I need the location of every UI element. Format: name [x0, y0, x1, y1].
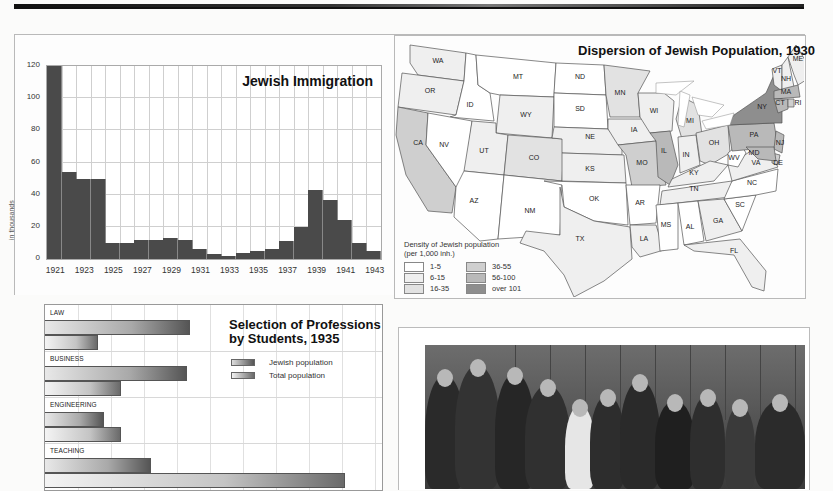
x-tick-label: 1941 [331, 265, 361, 275]
map-legend: Density of Jewish population (per 1,000 … [404, 240, 499, 298]
category-label-law: LAW [50, 309, 64, 316]
gridline-horizontal [47, 97, 381, 98]
state-label: CO [529, 154, 540, 161]
legend-total-label: Total population [269, 371, 325, 380]
great-lake [656, 81, 694, 95]
bar-1931 [192, 249, 207, 259]
gridline-vertical [178, 66, 179, 259]
state-label: AR [635, 199, 645, 206]
gridline-vertical [134, 66, 135, 259]
person-figure [690, 395, 725, 489]
legend-swatch [404, 262, 424, 272]
state-label: SC [735, 201, 745, 208]
person-face [732, 399, 748, 417]
legend-swatch [466, 262, 486, 272]
state-label: NY [757, 103, 767, 110]
state-label: MA [781, 88, 792, 95]
bar-jewish-business [45, 366, 187, 381]
gridline-vertical [366, 66, 367, 259]
legend-label: 1-5 [430, 262, 441, 271]
gridline-vertical [192, 66, 193, 259]
x-tick-label: 1925 [98, 265, 128, 275]
state-label: ID [467, 101, 474, 108]
legend-item: 36-55 [466, 262, 511, 272]
person-face [600, 389, 616, 407]
legend-label: 16-35 [430, 284, 449, 293]
state-ri [788, 99, 794, 107]
legend-items: 1-56-1516-3536-5556-100over 101 [404, 262, 499, 298]
legend-swatch [404, 284, 424, 294]
legend-item: over 101 [466, 284, 521, 294]
state-label: WA [432, 57, 443, 64]
state-label: CT [775, 99, 785, 106]
person-face [540, 379, 556, 397]
state-label: RI [795, 99, 802, 106]
bar-1936 [265, 249, 280, 259]
y-tick-label: 80 [22, 124, 40, 133]
state-label: KS [585, 165, 595, 172]
legend-label: 56-100 [492, 273, 515, 282]
person-face [772, 394, 788, 412]
gridline-vertical [163, 66, 164, 259]
category-divider [45, 397, 382, 398]
bar-1928 [149, 240, 164, 259]
legend-swatch [404, 273, 424, 283]
state-label: IL [661, 147, 667, 154]
bar-1926 [120, 243, 135, 259]
category-label-engineering: ENGINEERING [50, 401, 97, 408]
bar-1935 [250, 251, 265, 259]
state-label: MS [661, 221, 672, 228]
bar-jewish-engineering [45, 412, 104, 427]
legend-title-line2: (per 1,000 inh.) [404, 249, 499, 258]
person-figure [620, 380, 660, 489]
state-label: NM [525, 207, 536, 214]
gridline-vertical [149, 66, 150, 259]
state-label: CA [413, 139, 423, 146]
person-face [632, 374, 648, 392]
legend-swatch [466, 273, 486, 283]
bar-1939 [308, 190, 323, 259]
gridline-vertical [279, 66, 280, 259]
person-figure [755, 400, 805, 489]
state-label: UT [479, 147, 489, 154]
state-label: DE [773, 159, 783, 166]
professions-title-line1: Selection of Professions [229, 318, 381, 332]
top-rule-bottom [14, 7, 804, 9]
bar-total-business [45, 381, 121, 396]
bar-1938 [294, 227, 309, 259]
state-label: AZ [470, 197, 480, 204]
bar-1942 [352, 243, 367, 259]
person-figure [655, 400, 695, 489]
bar-1941 [337, 220, 352, 259]
category-label-business: BUSINESS [50, 355, 84, 362]
x-tick-label: 1939 [302, 265, 332, 275]
bar-1934 [236, 253, 251, 259]
state-label: AL [686, 223, 695, 230]
immigration-y-label: in thousands [8, 200, 15, 240]
bar-1923 [76, 179, 91, 259]
state-label: NE [585, 133, 595, 140]
bar-1927 [134, 240, 149, 259]
state-label: ND [575, 73, 585, 80]
gridline-vertical [236, 66, 237, 259]
category-divider [45, 351, 382, 352]
legend-jewish: Jewish population [231, 358, 333, 367]
state-label: WI [650, 107, 659, 114]
bar-1921 [47, 66, 62, 259]
state-label: NJ [776, 139, 785, 146]
state-label: MD [749, 149, 760, 156]
bar-1930 [178, 240, 193, 259]
curtain-fold [690, 345, 691, 420]
y-tick-label: 40 [22, 189, 40, 198]
x-tick-label: 1937 [273, 265, 303, 275]
category-label-teaching: TEACHING [50, 447, 84, 454]
state-label: MI [686, 117, 694, 124]
professions-title: Selection of Professions by Students, 19… [229, 318, 381, 346]
x-tick-label: 1935 [244, 265, 274, 275]
legend-item: 6-15 [404, 273, 445, 283]
state-label: LA [640, 235, 649, 242]
state-label: GA [713, 217, 723, 224]
group-photograph [425, 345, 805, 489]
y-tick-label: 0 [22, 253, 40, 262]
state-fl [684, 239, 766, 291]
